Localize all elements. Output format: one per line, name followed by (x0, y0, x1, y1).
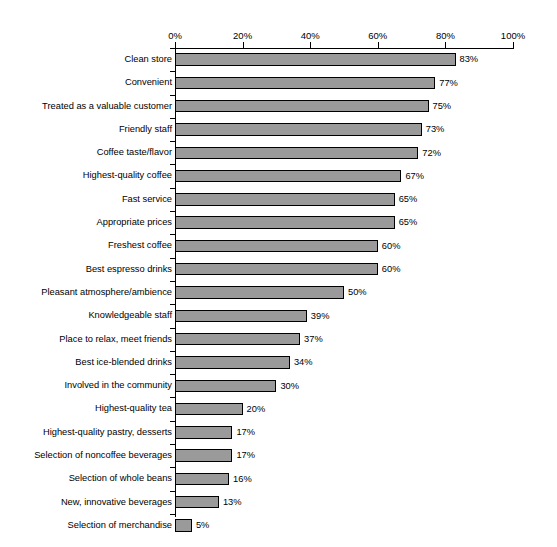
bar (175, 53, 456, 65)
bar-fill (175, 240, 378, 252)
category-label: Appropriate prices (97, 211, 172, 234)
bar-row: Selection of merchandise5% (0, 514, 557, 537)
bar-row: Involved in the community30% (0, 374, 557, 397)
category-label: Selection of noncoffee beverages (34, 444, 172, 467)
bar-fill (175, 449, 232, 461)
x-axis-tick-label: 60% (368, 29, 387, 42)
category-label: Freshest coffee (108, 234, 172, 257)
bar-fill (175, 403, 243, 415)
x-axis-tick-label: 0% (168, 29, 182, 42)
bar-row: Best ice-blended drinks34% (0, 351, 557, 374)
bar-row: Coffee taste/flavor72% (0, 141, 557, 164)
bar-value-label: 37% (300, 333, 323, 345)
bar-fill (175, 333, 300, 345)
bar (175, 426, 232, 438)
bar-value-label: 65% (395, 193, 418, 205)
bar-fill (175, 426, 232, 438)
category-label: Best ice-blended drinks (75, 351, 172, 374)
bar-fill (175, 193, 395, 205)
category-label: Pleasant atmosphere/ambience (41, 281, 172, 304)
category-label: Convenient (125, 71, 172, 94)
bar (175, 380, 276, 392)
category-label: Selection of merchandise (68, 514, 172, 537)
category-label: Fast service (122, 188, 172, 211)
bar (175, 147, 418, 159)
bar (175, 449, 232, 461)
bar (175, 193, 395, 205)
bar-value-label: 5% (192, 519, 209, 531)
x-axis-tick-labels: 0%20%40%60%80%100% (0, 29, 557, 42)
bar-value-label: 13% (219, 496, 242, 508)
bar-value-label: 20% (243, 403, 266, 415)
bar (175, 216, 395, 228)
x-axis-tick-label: 40% (301, 29, 320, 42)
bar-fill (175, 519, 192, 531)
x-axis-tick-mark (445, 42, 446, 49)
bar-row: Friendly staff73% (0, 118, 557, 141)
bar-row: Best espresso drinks60% (0, 258, 557, 281)
bar-rows: Clean store83%Convenient77%Treated as a … (0, 48, 557, 537)
bar-row: Highest-quality tea20% (0, 397, 557, 420)
bar-value-label: 83% (456, 53, 479, 65)
bar-row: Highest-quality pastry, desserts17% (0, 421, 557, 444)
category-label: Knowledgeable staff (88, 304, 172, 327)
bar (175, 496, 219, 508)
bar-fill (175, 100, 429, 112)
x-axis-tick-mark (243, 42, 244, 49)
bar-row: Selection of whole beans16% (0, 467, 557, 490)
bar-row: Treated as a valuable customer75% (0, 95, 557, 118)
bar-fill (175, 263, 378, 275)
bar-value-label: 16% (229, 473, 252, 485)
bar-chart: 0%20%40%60%80%100% Clean store83%Conveni… (0, 0, 557, 547)
bar (175, 123, 422, 135)
bar-value-label: 39% (307, 310, 330, 322)
bar-row: Highest-quality coffee67% (0, 164, 557, 187)
bar-value-label: 73% (422, 123, 445, 135)
category-label: Highest-quality pastry, desserts (43, 421, 172, 444)
x-axis-tick-label: 100% (501, 29, 525, 42)
x-axis-tick-label: 20% (233, 29, 252, 42)
category-label: Best espresso drinks (86, 258, 172, 281)
bar-row: Freshest coffee60% (0, 234, 557, 257)
bar-row: Pleasant atmosphere/ambience50% (0, 281, 557, 304)
bar (175, 263, 378, 275)
bar-row: Selection of noncoffee beverages17% (0, 444, 557, 467)
x-axis-tick-mark (310, 42, 311, 49)
bar-row: Clean store83% (0, 48, 557, 71)
bar-value-label: 17% (232, 426, 255, 438)
bar-fill (175, 356, 290, 368)
bar-value-label: 30% (276, 380, 299, 392)
bar-fill (175, 496, 219, 508)
bar (175, 240, 378, 252)
bar-value-label: 65% (395, 216, 418, 228)
bar-row: Place to relax, meet friends37% (0, 328, 557, 351)
bar-fill (175, 147, 418, 159)
category-label: Place to relax, meet friends (59, 328, 172, 351)
bar-fill (175, 77, 435, 89)
bar (175, 403, 243, 415)
bar-fill (175, 310, 307, 322)
bar-fill (175, 170, 401, 182)
category-label: Highest-quality tea (95, 397, 172, 420)
bar (175, 473, 229, 485)
bar-fill (175, 123, 422, 135)
bar-value-label: 77% (435, 77, 458, 89)
category-label: Treated as a valuable customer (42, 95, 172, 118)
bar-value-label: 60% (378, 240, 401, 252)
bar (175, 286, 344, 298)
bar-row: Appropriate prices65% (0, 211, 557, 234)
bar-fill (175, 53, 456, 65)
bar (175, 170, 401, 182)
bar-value-label: 17% (232, 449, 255, 461)
bar-value-label: 72% (418, 147, 441, 159)
bar-value-label: 67% (401, 170, 424, 182)
bar-row: Convenient77% (0, 71, 557, 94)
x-axis-tick-mark (378, 42, 379, 49)
category-label: Friendly staff (119, 118, 172, 141)
bar-value-label: 34% (290, 356, 313, 368)
bar (175, 310, 307, 322)
bar (175, 333, 300, 345)
bar (175, 100, 429, 112)
x-axis-tick-label: 80% (436, 29, 455, 42)
bar-fill (175, 380, 276, 392)
